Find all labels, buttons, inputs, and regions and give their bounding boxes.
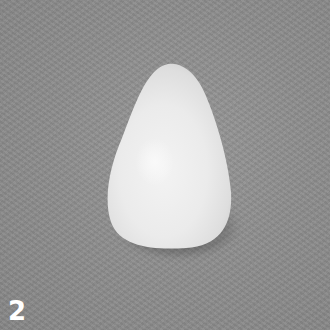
- figure-number-label: 2: [8, 296, 26, 326]
- photo: 2: [0, 0, 330, 330]
- white-pebble: [106, 62, 232, 249]
- photo-frame: 2: [0, 0, 333, 333]
